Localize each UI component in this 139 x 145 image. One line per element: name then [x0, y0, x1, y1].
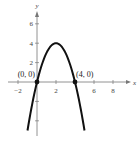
x-tick-label: 2	[54, 87, 58, 95]
parabola-chart: xy −2268246 (0, 0)(4, 0)	[0, 0, 139, 145]
point-label: (0, 0)	[18, 70, 36, 79]
point-label: (4, 0)	[76, 70, 94, 79]
intercept-point	[73, 80, 78, 85]
y-tick-label: 2	[30, 59, 34, 67]
x-tick-label: −2	[14, 87, 22, 95]
intercept-point	[35, 80, 40, 85]
x-tick-label: 8	[111, 87, 115, 95]
x-axis-arrow-icon	[126, 80, 131, 84]
x-tick-label: 6	[92, 87, 96, 95]
y-axis-label: y	[35, 2, 40, 10]
x-axis-label: x	[132, 79, 137, 87]
y-tick-label: 6	[30, 20, 34, 28]
y-axis-arrow-icon	[35, 11, 39, 17]
y-tick-label: 4	[30, 40, 34, 48]
